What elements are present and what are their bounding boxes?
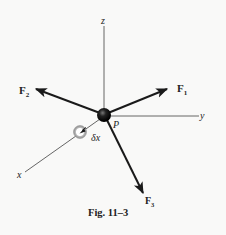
point-p-label: P	[112, 119, 119, 130]
y-axis-label: y	[199, 110, 205, 121]
force-f1-vector: F1	[108, 82, 188, 113]
force-f3-vector: F3	[107, 120, 155, 208]
figure-11-3: z y x F2 F1 F3	[0, 0, 226, 235]
force-f2-vector: F2	[19, 84, 100, 113]
x-axis-label: x	[16, 169, 22, 180]
z-axis-label: z	[100, 15, 105, 26]
displacement-label: δx	[91, 132, 101, 143]
z-axis: z	[100, 15, 105, 112]
force-f1-label: F1	[177, 82, 188, 97]
figure-caption: Fig. 11–3	[88, 207, 128, 218]
y-axis: y	[110, 110, 205, 121]
particle-p: P	[97, 108, 119, 130]
force-f2-label: F2	[19, 84, 30, 99]
x-axis: x	[16, 119, 100, 180]
force-f3-label: F3	[145, 195, 155, 208]
